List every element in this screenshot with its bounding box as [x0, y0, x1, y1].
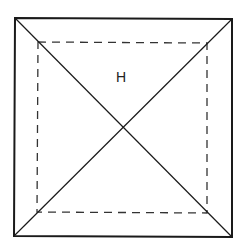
pyramid-diagram: H	[0, 0, 245, 249]
apex-label-h: H	[116, 69, 126, 85]
